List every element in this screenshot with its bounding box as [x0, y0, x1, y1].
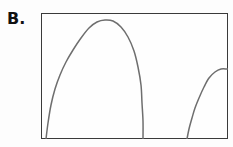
panel-label: B.	[7, 9, 25, 29]
figure-panel: B.	[0, 0, 233, 147]
plot-frame	[41, 13, 228, 139]
